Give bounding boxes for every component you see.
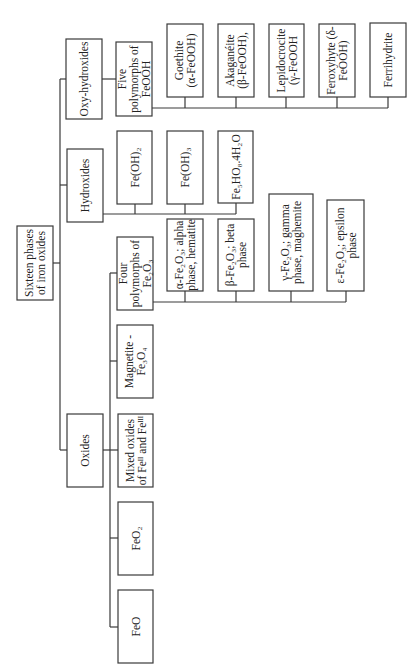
node-label-line: Mixed oxides — [124, 419, 136, 482]
node-magnetite: Magnetite -Fe₃O₄ — [117, 325, 153, 398]
node-root: Sixteen phasesof iron oxides — [17, 226, 53, 300]
node-label: Oxy-hydroxides — [78, 41, 91, 116]
node-label: α-Fe₂O₃; alphaphase, hematite — [173, 219, 198, 291]
node-label-line: Goethite — [173, 41, 185, 81]
node-fe-oh-3: Fe(OH)₃ — [167, 131, 203, 204]
node-label: FeO — [130, 617, 142, 637]
node-ferrihydrite: Ferrihydrite — [370, 23, 406, 97]
node-alpha-fe2o3: α-Fe₂O₃; alphaphase, hematite — [167, 219, 203, 291]
node-label-line: (β-FeOOH), — [236, 32, 249, 89]
node-feroxyhyte: Feroxyhyte (δ-FeOOH) — [319, 24, 355, 97]
node-gamma-fe2o3: γ-Fe₂O₃; gammaphase, maghemite — [269, 194, 313, 291]
node-feo2: FeO₂ — [118, 502, 153, 575]
node-label-line: Oxides — [79, 434, 91, 467]
node-fe-oh-2: Fe(OH)₂ — [117, 131, 152, 204]
node-label: Hydroxides — [79, 158, 92, 212]
node-label: Akaganéite(β-FeOOH), — [224, 32, 249, 89]
node-label: Sixteen phasesof iron oxides — [23, 228, 47, 297]
node-label: Fe₅HO₈.4H₂O — [230, 134, 242, 199]
node-label-line: of iron oxides — [35, 231, 47, 295]
node-label: Lepidocrocite(γ-FeOOH — [275, 29, 300, 93]
node-label-line: Four — [117, 262, 129, 284]
node-label-line: Fe(OH)₃ — [179, 148, 192, 188]
node-five-polymorphs-feooh: Fivepolymorphs ofFeOOH — [116, 42, 152, 116]
node-label-line: phase, maghemite — [291, 201, 304, 284]
node-label-line: FeO — [130, 617, 142, 637]
node-fe5ho8: Fe₅HO₈.4H₂O — [218, 131, 253, 203]
node-label-line: Ferrihydrite — [382, 33, 395, 88]
iron-oxide-phase-tree: Sixteen phasesof iron oxidesOxy-hydroxid… — [0, 0, 420, 670]
node-akaganeite: Akaganéite(β-FeOOH), — [218, 24, 254, 97]
node-label-line: Five — [116, 69, 128, 89]
node-label-line: Hydroxides — [79, 158, 92, 212]
node-lepidocrocite: Lepidocrocite(γ-FeOOH — [269, 24, 304, 97]
node-label-line: Fe(OH)₂ — [129, 148, 142, 188]
node-label: Goethite(α-FeOOH) — [173, 33, 198, 87]
node-label-line: Fe₂O₃ — [141, 260, 153, 288]
node-feo: FeO — [118, 590, 153, 663]
node-label: Mixed oxidesof Feᴵᴵ and Feᴵᴵᴵ — [124, 415, 148, 485]
node-label-line: of Feᴵᴵ and Feᴵᴵᴵ — [136, 415, 148, 485]
node-label-line: (α-FeOOH) — [185, 33, 198, 87]
node-label-line: (γ-FeOOH — [287, 36, 300, 85]
node-beta-fe2o3: β-Fe₂O₃; betaphase — [218, 219, 254, 291]
node-label-line: Oxy-hydroxides — [78, 41, 91, 116]
node-label: γ-Fe₂O₃; gammaphase, maghemite — [279, 201, 304, 284]
node-label-line: phase — [346, 232, 359, 258]
node-label: Ferrihydrite — [382, 33, 395, 88]
node-label-line: phase — [236, 242, 249, 268]
node-label-line: FeO₂ — [130, 527, 142, 551]
node-label-line: Fe₅HO₈.4H₂O — [230, 134, 242, 199]
node-label-line: FeOOH — [140, 61, 152, 97]
node-label-line: phase, hematite — [185, 219, 198, 291]
node-oxides: Oxides — [67, 414, 103, 487]
node-label-line: FeOOH) — [337, 40, 350, 80]
node-oxy-hydroxides: Oxy-hydroxides — [66, 39, 102, 119]
node-epsilon-fe2o3: ε-Fe₂O₃; epsilonphase — [327, 200, 364, 291]
node-goethite: Goethite(α-FeOOH) — [167, 24, 203, 97]
node-label: Fe(OH)₃ — [179, 148, 192, 188]
node-mixed-oxides: Mixed oxidesof Feᴵᴵ and Feᴵᴵᴵ — [118, 414, 153, 487]
diagram-nodes: Sixteen phasesof iron oxidesOxy-hydroxid… — [17, 23, 406, 663]
node-hydroxides: Hydroxides — [67, 149, 103, 222]
node-label-line: Fe₃O₄ — [135, 348, 147, 376]
node-label: Fe(OH)₂ — [129, 148, 142, 188]
node-label: FeO₂ — [130, 527, 142, 551]
node-four-polymorphs-fe2o3: Fourpolymorphs ofFe₂O₃ — [117, 237, 153, 310]
node-label: Oxides — [79, 434, 91, 467]
